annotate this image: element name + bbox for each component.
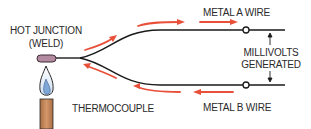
- current-arrow-icon: [138, 87, 180, 92]
- current-arrow-icon: [85, 38, 113, 50]
- burner-tube-icon: [40, 99, 53, 129]
- millivolts-label-line2: GENERATED: [236, 59, 306, 70]
- flame-icon: [40, 66, 53, 95]
- hot-junction-label: HOT JUNCTION (WELD): [6, 25, 86, 49]
- millivolts-generated-label: MILLIVOLTS GENERATED: [236, 47, 306, 70]
- current-arrows: [85, 22, 233, 92]
- thermocouple-label: THERMOCOUPLE: [72, 103, 154, 114]
- current-arrow-icon: [138, 22, 180, 26]
- thermocouple-diagram: HOT JUNCTION (WELD) METAL A WIRE METAL B…: [0, 0, 311, 129]
- metal-b-wire-label: METAL B WIRE: [203, 102, 271, 113]
- terminal-icon-a: [243, 27, 249, 33]
- metal-a-wire-label: METAL A WIRE: [203, 7, 270, 18]
- terminal-icon-b: [243, 82, 249, 88]
- hot-junction-label-line1: HOT JUNCTION: [6, 25, 86, 36]
- weld-bead-icon: [37, 55, 56, 62]
- millivolts-label-line1: MILLIVOLTS: [236, 47, 306, 58]
- hot-junction-label-line2: (WELD): [6, 38, 86, 49]
